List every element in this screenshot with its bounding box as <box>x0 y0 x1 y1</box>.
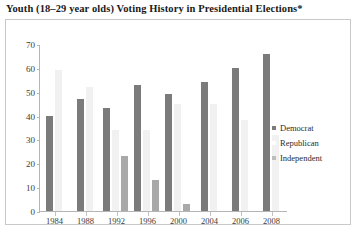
x-axis-tick-mark <box>117 212 118 216</box>
y-axis-tick-mark <box>37 45 40 46</box>
bar-democrat-1984 <box>46 116 53 211</box>
bar-group <box>40 45 71 211</box>
bar-republican-2004 <box>210 104 217 211</box>
x-axis-label-2006: 2006 <box>232 216 249 226</box>
bar-group <box>71 45 102 211</box>
legend-swatch-icon <box>272 156 276 160</box>
x-axis-label-1984: 1984 <box>46 216 63 226</box>
plot-area: 010203040506070 <box>39 45 287 212</box>
legend-swatch-icon <box>272 141 276 145</box>
x-axis-tick-mark <box>179 212 180 216</box>
bar-group <box>164 45 195 211</box>
bar-democrat-2004 <box>201 82 208 211</box>
bar-republican-1984 <box>55 70 62 211</box>
y-axis-tick-mark <box>37 93 40 94</box>
x-axis-tick-mark <box>241 212 242 216</box>
legend-item-democrat[interactable]: Democrat <box>272 120 356 135</box>
y-axis-tick-mark <box>37 69 40 70</box>
x-axis-tick-mark <box>210 212 211 216</box>
bar-independent-1992 <box>121 156 128 211</box>
x-axis-labels: 19841988199219962000200420062008 <box>39 216 287 231</box>
y-axis-tick-mark <box>37 164 40 165</box>
bar-democrat-2008 <box>263 54 270 211</box>
bar-group <box>195 45 226 211</box>
chart-container: Youth (18–29 year olds) Voting History i… <box>0 0 356 231</box>
x-axis-tick-mark <box>148 212 149 216</box>
bar-republican-2006 <box>241 120 248 211</box>
bar-group <box>102 45 133 211</box>
bar-democrat-1988 <box>77 99 84 211</box>
x-axis-label-2004: 2004 <box>201 216 218 226</box>
bar-group <box>133 45 164 211</box>
chart-title: Youth (18–29 year olds) Voting History i… <box>6 3 350 14</box>
x-axis-tick-mark <box>55 212 56 216</box>
legend-label: Republican <box>280 138 319 148</box>
legend-item-republican[interactable]: Republican <box>272 135 356 150</box>
bar-independent-1996 <box>152 180 159 211</box>
bar-democrat-2000 <box>165 94 172 211</box>
y-axis-tick-mark <box>37 117 40 118</box>
y-axis-tick-mark <box>37 140 40 141</box>
legend-label: Independent <box>280 153 322 163</box>
bar-democrat-2006 <box>232 68 239 211</box>
x-axis-label-2000: 2000 <box>170 216 187 226</box>
bar-republican-1992 <box>112 130 119 211</box>
x-axis-label-1992: 1992 <box>108 216 125 226</box>
bar-republican-1996 <box>143 130 150 211</box>
x-axis-label-1988: 1988 <box>77 216 94 226</box>
chart-legend: DemocratRepublicanIndependent <box>272 120 356 165</box>
bar-group <box>226 45 257 211</box>
legend-label: Democrat <box>280 123 314 133</box>
legend-swatch-icon <box>272 126 276 130</box>
bar-democrat-1992 <box>103 108 110 211</box>
bar-democrat-1996 <box>134 85 141 211</box>
y-axis-tick-mark <box>37 212 40 213</box>
legend-item-independent[interactable]: Independent <box>272 150 356 165</box>
bar-independent-2000 <box>183 204 190 211</box>
y-axis-tick-mark <box>37 188 40 189</box>
bar-series-layer <box>40 45 287 211</box>
x-axis-label-1996: 1996 <box>139 216 156 226</box>
x-axis-tick-mark <box>272 212 273 216</box>
x-axis-tick-mark <box>86 212 87 216</box>
x-axis-label-2008: 2008 <box>263 216 280 226</box>
chart-frame: 010203040506070 198419881992199620002004… <box>5 19 351 225</box>
bar-republican-2000 <box>174 104 181 211</box>
bar-republican-1988 <box>86 87 93 211</box>
